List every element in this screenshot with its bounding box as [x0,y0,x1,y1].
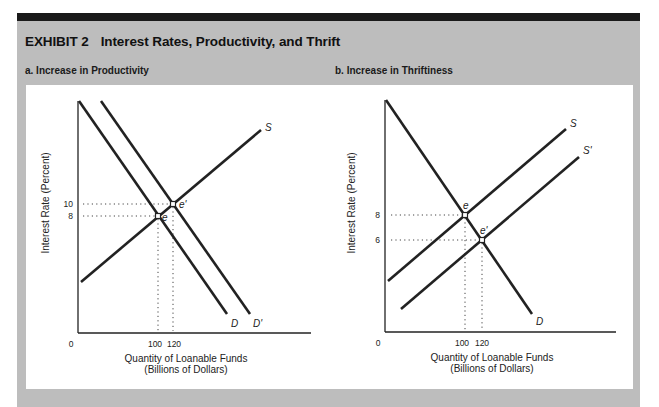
chart-a-label-d-prime: D' [253,318,263,329]
chart-b-label-e-prime: e' [480,225,489,236]
chart-a-label-e: e [162,212,168,223]
chart-a-label-e-prime: e' [179,199,188,210]
chart-a: e e' S D D' 10 8 0 100 120 Quantity of L… [40,101,311,375]
charts-svg: e e' S D D' 10 8 0 100 120 Quantity of L… [0,0,659,407]
chart-b-label-s-prime: S' [583,145,593,156]
chart-b-demand-curve [386,100,532,314]
chart-b-label-e: e [463,200,469,211]
chart-b-xlabel-line2: (Billions of Dollars) [450,363,533,374]
chart-b-point-e-prime [480,238,485,243]
chart-a-demand-curve [79,101,227,314]
chart-a-label-d: D [231,318,238,329]
chart-b-label-s: S [570,118,577,129]
chart-b: e e' S S' D 8 6 0 100 120 Quantity of Lo… [346,100,616,374]
chart-b-xtick-100: 100 [455,338,469,348]
chart-b-supply-curve [388,129,566,281]
chart-b-ylabel: Interest Rate (Percent) [346,152,357,253]
chart-a-xlabel-line1: Quantity of Loanable Funds [125,353,248,364]
chart-a-label-s: S [265,122,272,133]
chart-b-xtick-120: 120 [475,338,489,348]
chart-b-point-e [463,213,468,218]
chart-b-ytick-8: 8 [375,210,380,220]
chart-a-ytick-10: 10 [64,199,74,209]
chart-a-origin: 0 [69,339,74,349]
chart-b-supply-shifted-curve [401,157,579,309]
chart-a-point-e-prime [171,202,176,207]
chart-a-xtick-100: 100 [148,339,162,349]
chart-a-xlabel-line2: (Billions of Dollars) [144,364,227,375]
chart-a-xtick-120: 120 [167,339,181,349]
chart-a-point-e [156,214,161,219]
chart-b-xlabel-line1: Quantity of Loanable Funds [431,352,554,363]
chart-b-label-d: D [536,316,543,327]
chart-b-guides [391,215,482,330]
chart-a-ylabel: Interest Rate (Percent) [40,152,51,253]
chart-a-demand-shifted-curve [101,101,250,314]
chart-a-ytick-8: 8 [68,211,73,221]
chart-b-ytick-6: 6 [375,235,380,245]
chart-b-origin: 0 [376,338,381,348]
